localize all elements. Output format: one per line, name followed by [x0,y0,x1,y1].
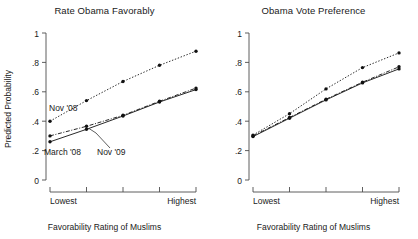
plot-area-right: 1 .8 .6 .4 .2 0 Lowest Highest [209,0,418,239]
series-annotation-march08: March '08 [44,147,81,157]
y-tick-label: 1 [237,29,242,39]
panel-rate-obama-favorably: Rate Obama Favorably Predicted Probabili… [0,0,209,239]
plot-area-left: 1 .8 .6 .4 .2 0 Lowest Highest [0,0,209,239]
y-tick-label: .6 [235,87,242,97]
y-tick-label: .4 [235,117,242,127]
y-tick-label: .6 [32,87,39,97]
x-tick-label-lowest: Lowest [50,196,78,206]
y-tick-label: 1 [34,29,39,39]
y-tick-label: .8 [32,58,39,68]
x-tick-label-lowest: Lowest [253,196,281,206]
series-march08-left [48,88,197,144]
y-tick-label: 0 [34,176,39,186]
series-march08-right [251,67,400,138]
x-axis-left: Lowest Highest [50,187,197,206]
figure-two-panel-line-charts: Rate Obama Favorably Predicted Probabili… [0,0,418,239]
y-tick-label: .8 [235,58,242,68]
y-axis-right: 1 .8 .6 .4 .2 0 [235,29,249,186]
leader-line-nov09 [89,129,110,149]
y-tick-label: .2 [32,146,39,156]
x-axis-right: Lowest Highest [253,187,400,206]
y-tick-label: .2 [235,146,242,156]
panel-obama-vote-preference: Obama Vote Preference Favorability Ratin… [209,0,418,239]
series-annotation-nov08: Nov '08 [49,103,78,113]
y-tick-label: 0 [237,176,242,186]
y-axis-left: 1 .8 .6 .4 .2 0 [32,29,46,186]
x-tick-label-highest: Highest [370,196,399,206]
series-annotation-nov09: Nov '09 [97,147,126,157]
series-nov08-right [251,51,400,137]
x-tick-label-highest: Highest [167,196,196,206]
y-tick-label: .4 [32,117,39,127]
